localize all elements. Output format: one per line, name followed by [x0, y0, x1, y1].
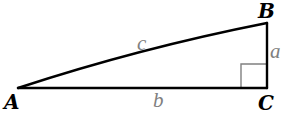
- right-angle-marker: [241, 64, 267, 88]
- side-label-c: c: [137, 31, 147, 55]
- vertex-label-c: C: [258, 91, 274, 115]
- vertex-label-a: A: [2, 90, 20, 114]
- vertex-label-b: B: [257, 0, 275, 23]
- side-label-a: a: [270, 39, 281, 63]
- side-label-b: b: [153, 88, 164, 112]
- right-triangle-diagram: A B C a b c: [0, 0, 282, 132]
